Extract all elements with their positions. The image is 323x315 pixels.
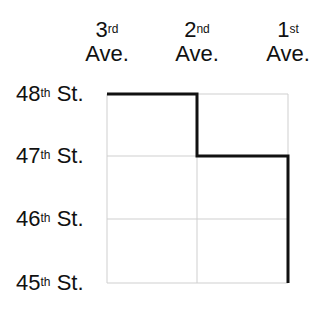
street-grid-diagram xyxy=(0,0,323,315)
